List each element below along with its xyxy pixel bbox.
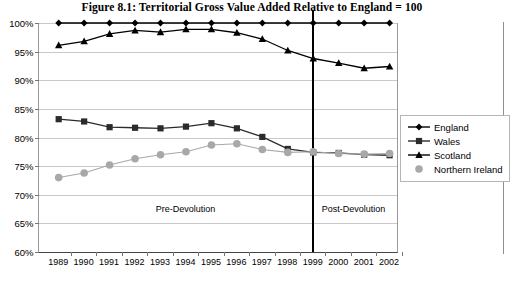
data-point [207,141,215,149]
x-axis-tick-mark [173,252,174,256]
series-england [55,20,393,27]
data-point [55,116,61,122]
x-axis-tick-mark [198,252,199,256]
data-point [233,140,241,148]
x-axis-tick-label: 1995 [201,257,221,267]
data-point [309,148,317,156]
x-axis-tick-mark [300,252,301,256]
x-axis-tick-mark [122,252,123,256]
legend-label: Northern Ireland [432,164,503,175]
x-axis-tick-mark [275,252,276,256]
data-point [131,20,138,27]
legend-label: Wales [432,136,460,147]
x-axis-tick-label: 1998 [277,257,297,267]
data-point [157,20,164,27]
x-axis-tick-label: 1989 [48,257,68,267]
x-axis-tick-label: 1993 [150,257,170,267]
x-axis-tick-mark [376,252,377,256]
data-point [283,149,291,157]
triangle-marker [406,149,432,161]
x-axis-tick-label: 1997 [252,257,272,267]
data-point [259,134,265,140]
data-point [208,120,214,126]
square-marker [406,135,432,147]
data-point [80,20,87,27]
data-point [54,174,62,182]
data-point [55,20,62,27]
legend-item-wales[interactable]: Wales [406,134,503,148]
x-axis-tick-mark [224,252,225,256]
x-axis-tick-label: 1996 [226,257,246,267]
data-point [81,118,87,124]
x-axis-tick-label: 2001 [354,257,374,267]
data-point [182,124,188,130]
legend-item-northern-ireland[interactable]: Northern Ireland [406,162,503,176]
x-axis-tick-mark [71,252,72,256]
data-point [360,150,368,158]
data-point [335,20,342,27]
data-point [208,20,215,27]
data-point [131,125,137,131]
data-point [233,20,240,27]
plot-area: 60%65%70%75%80%85%90%95%100% 19891990199… [38,23,398,253]
x-axis-tick-label: 2000 [328,257,348,267]
circle-marker [406,163,432,175]
data-point [157,125,163,131]
x-axis-tick-label: 2002 [379,257,399,267]
data-point [334,150,342,158]
x-axis-tick-label: 1992 [125,257,145,267]
data-point [182,148,190,156]
chart-legend: EnglandWalesScotlandNorthern Ireland [400,115,510,182]
data-point [131,155,139,163]
x-axis-tick-mark [402,252,403,256]
data-point [80,169,88,177]
x-axis-tick-label: 1990 [74,257,94,267]
figure-title: Figure 8.1: Territorial Gross Value Adde… [0,1,504,13]
x-axis-tick-mark [325,252,326,256]
data-point [386,20,393,27]
x-axis-tick-mark [351,252,352,256]
legend-item-scotland[interactable]: Scotland [406,148,503,162]
legend-label: Scotland [432,150,471,161]
data-point [258,146,266,154]
legend-label: England [432,122,469,133]
data-point [233,125,239,131]
x-axis-tick-mark [96,252,97,256]
data-point [105,161,113,169]
series-scotland [54,25,392,71]
x-axis-tick-label: 1999 [303,257,323,267]
legend-item-england[interactable]: England [406,120,503,134]
data-point [284,47,291,54]
data-point [106,20,113,27]
y-axis-tick-mark [35,252,39,253]
data-point [156,151,164,159]
data-point [258,20,265,27]
series-layer [39,23,397,252]
x-axis-tick-mark [147,252,148,256]
x-axis-tick-label: 1994 [175,257,195,267]
data-point [385,150,393,158]
data-point [106,124,112,130]
data-point [309,20,316,27]
diamond-marker [406,121,432,133]
data-point [360,20,367,27]
series-northern-ireland [54,140,393,181]
data-point [182,20,189,27]
data-point [284,20,291,27]
x-axis-tick-label: 1991 [99,257,119,267]
x-axis-tick-mark [249,252,250,256]
